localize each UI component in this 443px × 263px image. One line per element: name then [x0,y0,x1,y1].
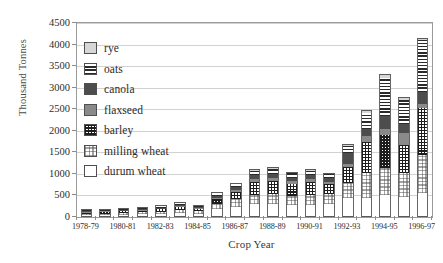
x-axis-tick-label: 1978-79 [72,222,99,231]
table-row [267,167,279,217]
x-axis-tick-mark [412,216,413,220]
x-axis-tick-label: 1990-91 [296,222,323,231]
y-axis-tick-label: 4000 [14,38,70,49]
x-axis-tick-mark [375,216,376,220]
y-axis-tick-label: 4500 [14,17,70,28]
y-axis-tick-mark [72,44,76,45]
stacked-bar-chart: Thousand Tonnes 050010001500200025003000… [0,0,443,263]
y-axis-tick-mark [72,65,76,66]
x-axis-tick-labels: 1978-791980-811982-831984-851986-871988-… [0,222,443,236]
x-axis-tick-mark [356,216,357,220]
y-axis-tick-label: 2000 [14,124,70,135]
bar-segment-oats [342,146,354,153]
bar-segment-barley [267,181,279,194]
table-row [417,38,429,217]
y-axis-tick-mark [72,151,76,152]
bar-segment-milling-wheat [323,194,335,204]
table-row [305,169,317,217]
bar-segment-milling-wheat [361,173,373,197]
y-axis-tick-mark [72,22,76,23]
legend-item-label: oats [104,63,123,75]
bar-segment-durum-wheat [417,193,429,217]
table-row [211,192,223,217]
legend-swatch-icon [84,42,97,54]
legend-item-barley: barley [84,120,169,141]
x-axis-tick-mark [76,216,77,220]
bar-segment-canola [342,153,354,164]
x-axis-title: Crop Year [60,238,443,250]
y-axis-tick-mark [72,87,76,88]
y-axis-tick-mark [72,130,76,131]
bar-segment-milling-wheat [286,196,298,205]
x-axis-tick-mark [319,216,320,220]
table-row [230,183,242,217]
y-axis-tick-label: 1000 [14,167,70,178]
table-row [174,202,186,217]
x-axis-tick-mark [244,216,245,220]
legend-swatch-icon [84,104,97,116]
y-axis-tick-label: 1500 [14,146,70,157]
x-axis-tick-mark [300,216,301,220]
legend-swatch-icon [84,124,97,136]
bar-segment-barley [323,184,335,194]
bar-segment-oats [417,40,429,92]
bar-segment-milling-wheat [249,195,261,204]
x-axis-tick-mark [225,216,226,220]
y-axis-tick-label: 0 [14,211,70,222]
legend-item-label: rye [104,42,119,54]
bar-segment-oats [361,113,373,129]
bar-segment-durum-wheat [342,198,354,217]
bar-segment-barley [286,184,298,197]
x-axis-tick-mark [132,216,133,220]
bar-segment-barley [249,182,261,195]
x-axis-tick-label: 1996-97 [408,222,435,231]
bar-segment-barley [379,135,391,168]
bar-segment-barley [398,145,410,173]
bar-segment-barley [417,108,429,155]
bar-segment-barley [230,192,242,200]
bar-segment-durum-wheat [361,198,373,217]
legend-swatch-icon [84,145,97,157]
x-axis-tick-label: 1986-87 [222,222,249,231]
table-row [249,169,261,217]
table-row [342,144,354,217]
table-row [361,110,373,217]
legend-item-label: canola [104,83,135,95]
bar-segment-milling-wheat [379,168,391,196]
legend-item-durum-wheat: durum wheat [84,161,169,182]
legend-item-milling-wheat: milling wheat [84,141,169,162]
table-row [286,172,298,217]
bar-segment-milling-wheat [398,173,410,197]
y-axis-tick-label: 3500 [14,60,70,71]
y-axis-tick-mark [72,108,76,109]
bar-segment-milling-wheat [267,194,279,204]
bar-segment-oats [379,78,391,116]
x-axis-tick-label: 1994-95 [371,222,398,231]
legend-item-oats: oats [84,59,169,80]
y-axis-tick-mark [72,173,76,174]
bar-segment-durum-wheat [379,195,391,217]
legend-item-label: milling wheat [104,145,169,157]
x-axis-tick-mark [263,216,264,220]
legend-swatch-icon [84,83,97,95]
x-axis-tick-mark [188,216,189,220]
chart-legend: ryeoatscanolaflaxseedbarleymilling wheat… [84,38,169,182]
x-axis-tick-mark [394,216,395,220]
bar-segment-canola [361,129,373,137]
legend-item-rye: rye [84,38,169,59]
bar-segment-barley [361,142,373,174]
bar-segment-canola [379,116,391,129]
legend-item-canola: canola [84,79,169,100]
bar-segment-canola [398,124,410,133]
bar-segment-barley [305,182,317,195]
bar-segment-canola [417,92,429,104]
bar-segment-oats [398,100,410,124]
x-axis-tick-label: 1984-85 [184,222,211,231]
legend-item-label: barley [104,124,133,136]
legend-item-flaxseed: flaxseed [84,100,169,121]
bar-segment-durum-wheat [398,197,410,217]
legend-swatch-icon [84,63,97,75]
x-axis-tick-mark [113,216,114,220]
x-axis-tick-mark [338,216,339,220]
bar-segment-milling-wheat [342,183,354,197]
